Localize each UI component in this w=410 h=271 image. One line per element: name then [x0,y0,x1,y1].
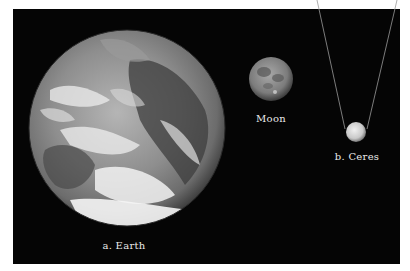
ceres-label: b. Ceres [335,151,380,162]
ceres-image [346,122,366,142]
earth-image [29,30,225,227]
earth-label: a. Earth [102,240,145,251]
callout-lines [317,0,397,129]
moon-label: Moon [256,113,286,124]
celestial-bodies-illustration [0,0,410,271]
moon-image [249,57,293,101]
